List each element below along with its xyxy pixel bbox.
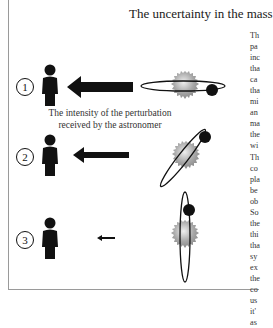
text-line: us (250, 295, 270, 306)
text-line: ob (250, 196, 270, 207)
text-line: wi (250, 140, 270, 151)
text-line: the (250, 218, 270, 229)
figure-title: The uncertainty in the mass (129, 6, 273, 22)
text-line: Th (250, 30, 270, 41)
small-arrow-icon (97, 235, 115, 241)
text-line: tha (250, 63, 270, 74)
text-line: thi (250, 229, 270, 240)
text-line: tha (250, 240, 270, 251)
text-line: sy (250, 251, 270, 262)
frame-left-border (8, 0, 9, 289)
text-line: pa (250, 41, 270, 52)
text-line: the (250, 129, 270, 140)
medium-arrow-icon (73, 147, 129, 163)
body-text-column: Th pa inc tha ca tha mi an ma the wi Th … (250, 30, 270, 328)
text-line: be (250, 185, 270, 196)
text-line: an (250, 107, 270, 118)
text-line: ma (250, 118, 270, 129)
scenario-number-1: 1 (16, 78, 34, 96)
frame-bottom-border (8, 289, 259, 290)
text-line: Th (250, 152, 270, 163)
text-line: it' (250, 306, 270, 317)
astronomer-person-icon (40, 134, 60, 176)
text-line: co (250, 163, 270, 174)
text-line: co (250, 284, 270, 295)
face-on-orbit-star-planet-icon (165, 190, 205, 286)
edge-on-orbit-star-planet-icon (140, 62, 230, 108)
scenario-number-3: 3 (16, 231, 34, 249)
text-line: pla (250, 174, 270, 185)
text-line: So (250, 207, 270, 218)
text-line: the (250, 273, 270, 284)
large-arrow-icon (67, 76, 133, 98)
text-line: as (250, 317, 270, 328)
text-line: ex (250, 262, 270, 273)
inclined-orbit-star-planet-icon (150, 128, 220, 190)
astronomer-person-icon (40, 64, 60, 106)
text-line: tha (250, 85, 270, 96)
scenario-number-2: 2 (16, 148, 34, 166)
text-line: inc (250, 52, 270, 63)
caption-line-1: The intensity of the perturbation (40, 107, 180, 119)
astronomer-person-icon (40, 217, 60, 259)
text-line: ca (250, 74, 270, 85)
text-line: mi (250, 96, 270, 107)
